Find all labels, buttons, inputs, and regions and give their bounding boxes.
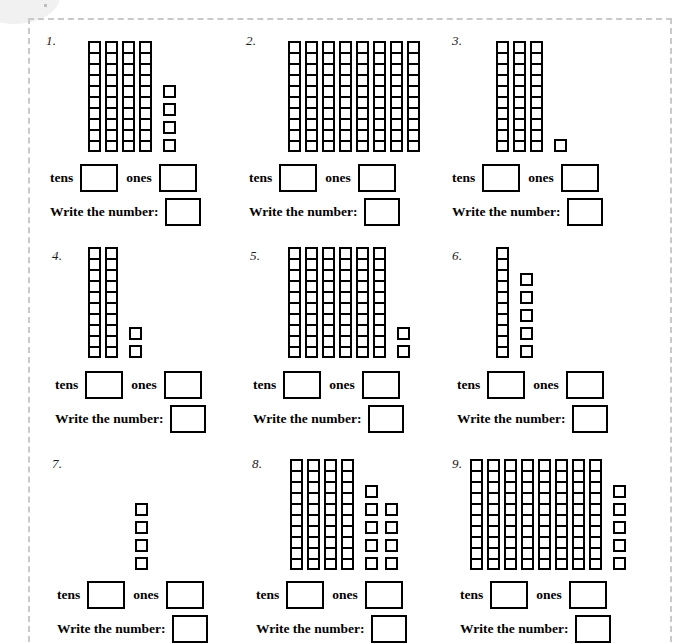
- rod-cell: [555, 536, 568, 547]
- rod-cell: [139, 85, 152, 96]
- tens-rods-1: [88, 41, 156, 152]
- rod-cell: [339, 335, 352, 346]
- tens-input-box-2[interactable]: [279, 164, 317, 192]
- ones-input-box-4[interactable]: [164, 371, 202, 399]
- rod-cell: [122, 118, 135, 129]
- problem-number-7: 7.: [52, 456, 62, 472]
- tens-input-box-5[interactable]: [283, 371, 321, 399]
- tens-input-box-4[interactable]: [85, 371, 123, 399]
- rod-cell: [470, 514, 483, 525]
- ones-label: ones: [133, 587, 159, 603]
- tens-input-box-6[interactable]: [487, 371, 525, 399]
- rod-cell: [88, 63, 101, 74]
- answer-block-7: tensonesWrite the number:: [57, 580, 208, 644]
- rod-cell: [487, 503, 500, 514]
- number-input-box-2[interactable]: [364, 198, 400, 226]
- write-number-row: Write the number:: [249, 197, 400, 227]
- rod-cell: [496, 335, 509, 346]
- number-input-box-5[interactable]: [368, 405, 404, 433]
- rod-cell: [139, 96, 152, 107]
- rod-cell: [356, 96, 369, 107]
- ones-label: ones: [325, 170, 351, 186]
- ones-input-box-2[interactable]: [358, 164, 396, 192]
- rod-cell: [373, 269, 386, 280]
- rod-cell: [105, 129, 118, 140]
- ones-units-5: [390, 327, 410, 358]
- rod-cell: [88, 324, 101, 335]
- number-input-box-9[interactable]: [575, 615, 611, 643]
- number-input-box-6[interactable]: [572, 405, 608, 433]
- rod-cell: [572, 558, 585, 570]
- number-input-box-7[interactable]: [172, 615, 208, 643]
- ones-input-box-9[interactable]: [569, 581, 607, 609]
- rod-cell: [305, 302, 318, 313]
- rod-cell: [496, 96, 509, 107]
- one-unit: [520, 327, 533, 340]
- rod-cell: [307, 547, 320, 558]
- rod-cell: [496, 41, 509, 52]
- base-ten-blocks-3: [496, 30, 567, 152]
- rod-cell: [288, 346, 301, 358]
- rod-cell: [407, 63, 420, 74]
- ones-input-box-6[interactable]: [566, 371, 604, 399]
- tens-ones-row: tensones: [50, 163, 201, 193]
- number-input-box-1[interactable]: [165, 198, 201, 226]
- tens-input-box-1[interactable]: [80, 164, 118, 192]
- rod-cell: [373, 118, 386, 129]
- rod-cell: [105, 247, 118, 258]
- base-ten-blocks-2: [288, 30, 424, 152]
- rod-cell: [504, 470, 517, 481]
- tens-input-box-3[interactable]: [482, 164, 520, 192]
- tens-ones-row: tensones: [57, 580, 208, 610]
- rod-cell: [538, 536, 551, 547]
- rod-cell: [373, 41, 386, 52]
- number-input-box-8[interactable]: [371, 615, 407, 643]
- ones-input-box-7[interactable]: [166, 581, 204, 609]
- number-input-box-4[interactable]: [170, 405, 206, 433]
- tens-input-box-8[interactable]: [286, 581, 324, 609]
- rod-cell: [496, 129, 509, 140]
- rod-cell: [88, 247, 101, 258]
- tens-label: tens: [256, 587, 279, 603]
- base-ten-blocks-4: [88, 236, 142, 358]
- rod-cell: [373, 302, 386, 313]
- rod-cell: [356, 63, 369, 74]
- number-input-box-3[interactable]: [567, 198, 603, 226]
- tens-input-box-9[interactable]: [490, 581, 528, 609]
- one-unit: [365, 485, 378, 498]
- rod-cell: [589, 470, 602, 481]
- rod-cell: [322, 107, 335, 118]
- ones-input-box-3[interactable]: [561, 164, 599, 192]
- rod-cell: [572, 470, 585, 481]
- ten-rod: [322, 247, 335, 358]
- rod-cell: [105, 118, 118, 129]
- rod-cell: [88, 313, 101, 324]
- rod-cell: [339, 63, 352, 74]
- one-unit: [520, 345, 533, 358]
- ten-rod: [373, 247, 386, 358]
- base-ten-blocks-9: [470, 448, 626, 570]
- ones-input-box-8[interactable]: [365, 581, 403, 609]
- ones-column: [385, 503, 398, 570]
- rod-cell: [305, 291, 318, 302]
- rod-cell: [322, 140, 335, 152]
- rod-cell: [290, 459, 303, 470]
- rod-cell: [373, 247, 386, 258]
- rod-cell: [504, 492, 517, 503]
- rod-cell: [470, 547, 483, 558]
- rod-cell: [513, 140, 526, 152]
- base-ten-blocks-7: [128, 448, 148, 570]
- rod-cell: [139, 118, 152, 129]
- rod-cell: [538, 514, 551, 525]
- rod-cell: [105, 107, 118, 118]
- ones-input-box-1[interactable]: [159, 164, 197, 192]
- rod-cell: [555, 503, 568, 514]
- answer-block-1: tensonesWrite the number:: [50, 163, 201, 227]
- tens-input-box-7[interactable]: [87, 581, 125, 609]
- rod-cell: [373, 258, 386, 269]
- rod-cell: [139, 107, 152, 118]
- one-unit: [385, 521, 398, 534]
- rod-cell: [305, 96, 318, 107]
- ones-input-box-5[interactable]: [362, 371, 400, 399]
- rod-cell: [122, 140, 135, 152]
